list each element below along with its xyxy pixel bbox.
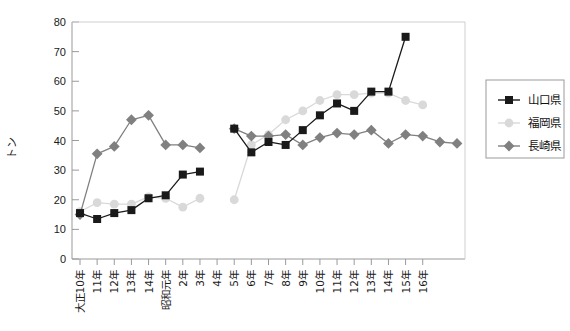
- y-tick-label: 0: [60, 253, 66, 265]
- y-tick-label: 10: [54, 223, 66, 235]
- data-point-circle: [333, 90, 342, 99]
- data-point-diamond: [195, 143, 206, 154]
- data-point-diamond: [126, 114, 137, 125]
- x-tick-label: 10年: [314, 270, 326, 293]
- data-point-square: [127, 206, 135, 214]
- x-tick-label: 12年: [108, 270, 120, 293]
- data-point-diamond: [366, 125, 377, 136]
- legend-label: 福岡県: [528, 116, 562, 130]
- data-point-square: [110, 209, 118, 217]
- y-axis-title: トン: [6, 137, 19, 159]
- data-point-square: [179, 171, 187, 179]
- y-tick-label: 40: [54, 135, 66, 147]
- x-tick-label: 昭和元年: [160, 270, 172, 310]
- data-point-square: [282, 141, 290, 149]
- data-point-square: [333, 99, 341, 107]
- data-point-circle: [298, 106, 307, 115]
- data-point-circle: [230, 195, 239, 204]
- y-tick-label: 50: [54, 105, 66, 117]
- y-axis-title-label: トン: [6, 137, 19, 159]
- data-point-circle: [401, 96, 410, 105]
- data-point-diamond: [246, 131, 257, 142]
- data-point-diamond: [383, 138, 394, 149]
- data-point-square: [299, 126, 307, 134]
- data-point-square: [350, 107, 358, 115]
- y-tick-label: 60: [54, 75, 66, 87]
- data-point-circle: [196, 194, 205, 203]
- data-point-diamond: [434, 137, 445, 148]
- data-point-circle: [418, 101, 427, 110]
- legend: 山口県福岡県長崎県: [486, 80, 564, 158]
- data-point-diamond: [417, 131, 428, 142]
- data-point-square: [162, 191, 170, 199]
- data-point-diamond: [160, 140, 171, 151]
- x-tick-label: 7年: [263, 270, 275, 287]
- series-line: [80, 172, 200, 219]
- x-tick-label: 9年: [297, 270, 309, 287]
- data-point-square: [247, 148, 255, 156]
- data-point-diamond: [177, 140, 188, 151]
- data-point-diamond: [349, 129, 360, 140]
- data-point-square: [196, 168, 204, 176]
- data-point-square: [230, 125, 238, 133]
- data-point-diamond: [109, 141, 120, 152]
- data-point-diamond: [315, 132, 326, 143]
- data-point-diamond: [280, 129, 291, 140]
- data-point-square: [265, 138, 273, 146]
- x-tick-label: 3年: [194, 270, 206, 287]
- data-point-diamond: [297, 140, 308, 151]
- data-point-diamond: [92, 148, 103, 159]
- x-tick-label: 14年: [143, 270, 155, 293]
- x-tick-label: 8年: [280, 270, 292, 287]
- y-tick-label: 20: [54, 194, 66, 206]
- data-point-diamond: [143, 110, 154, 121]
- data-point-circle: [110, 200, 119, 209]
- x-tick-label: 11年: [91, 270, 103, 293]
- x-tick-label: 2年: [177, 270, 189, 287]
- data-point-square: [76, 209, 84, 217]
- data-point-diamond: [400, 129, 411, 140]
- chart-container: トン 01020304050607080 大正10年11年12年13年14年昭和…: [0, 0, 570, 331]
- data-point-square: [367, 88, 375, 96]
- data-point-square: [145, 194, 153, 202]
- data-point-diamond: [452, 138, 463, 149]
- x-tick-label: 16年: [417, 270, 429, 293]
- data-point-circle: [281, 115, 290, 124]
- x-tick-label: 11年: [331, 270, 343, 293]
- x-tick-label: 13年: [365, 270, 377, 293]
- data-point-circle: [505, 119, 514, 128]
- x-tick-label: 4年: [211, 270, 223, 287]
- x-tick-label: 6年: [245, 270, 257, 287]
- legend-label: 山口県: [528, 93, 562, 107]
- series-layer: [75, 33, 463, 223]
- data-point-square: [402, 33, 410, 41]
- data-point-diamond: [332, 128, 343, 139]
- x-tick-label: 13年: [125, 270, 137, 293]
- x-tick-label: 14年: [382, 270, 394, 293]
- line-chart: トン 01020304050607080 大正10年11年12年13年14年昭和…: [0, 0, 570, 331]
- y-tick-label: 70: [54, 46, 66, 58]
- data-point-square: [505, 96, 513, 104]
- data-point-circle: [93, 198, 102, 207]
- legend-label: 長崎県: [528, 139, 562, 153]
- data-point-square: [93, 215, 101, 223]
- data-point-square: [316, 111, 324, 119]
- x-tick-label: 5年: [228, 270, 240, 287]
- x-tick-label: 12年: [348, 270, 360, 293]
- y-tick-label: 80: [54, 16, 66, 28]
- data-point-circle: [316, 96, 325, 105]
- y-tick-label: 30: [54, 164, 66, 176]
- x-tick-label: 15年: [400, 270, 412, 293]
- data-point-square: [384, 88, 392, 96]
- data-point-circle: [178, 203, 187, 212]
- y-axis-ticks: 01020304050607080: [54, 16, 79, 265]
- x-tick-label: 大正10年: [74, 270, 86, 313]
- data-point-circle: [350, 90, 359, 99]
- x-axis-ticks: 大正10年11年12年13年14年昭和元年2年3年4年5年6年7年8年9年10年…: [74, 259, 429, 313]
